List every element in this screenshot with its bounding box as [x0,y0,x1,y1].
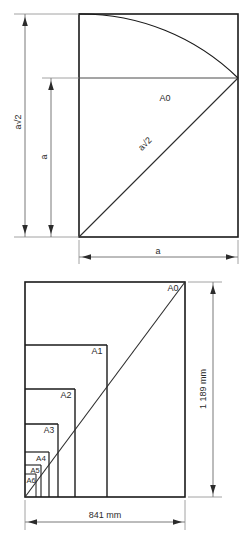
construction-arc [79,14,238,78]
bottom-diagram-group: A0 A1 A2 A3 A4 A5 A6 1 189 mm 841 mm [25,282,222,530]
height-dimension-label: a√2 [13,115,23,130]
square-side-dimension-label: a [39,154,49,159]
width-dimension-arrow-left [82,254,91,260]
width-dimension-arrow-right [226,254,235,260]
label-a1: A1 [91,346,102,356]
a0-sheet-label: A0 [159,93,170,103]
bottom-width-dimension-label: 841 mm [89,510,122,520]
label-a5: A5 [30,466,39,475]
top-diagram-group: A0 a√2 a√2 a a [13,14,238,264]
bottom-height-arrow-bottom [210,485,216,494]
bottom-height-dimension-label: 1 189 mm [198,369,208,409]
height-dimension-arrow-top [22,17,28,26]
height-dimension-arrow-bottom [22,225,28,234]
label-a2: A2 [60,390,71,400]
width-dimension-label: a [155,246,160,256]
bottom-width-arrow-left [28,519,37,525]
label-a0: A0 [167,283,178,293]
bottom-width-arrow-right [173,519,182,525]
a0-rectangle-outline [79,14,238,237]
label-a3: A3 [44,425,55,435]
square-side-arrow-top [48,81,54,90]
iso-paper-size-diagram: A0 a√2 a√2 a a [0,0,248,545]
figure-canvas: A0 a√2 a√2 a a [0,0,248,545]
label-a6: A6 [26,476,35,485]
diagonal-length-label: a√2 [136,135,154,153]
bottom-height-arrow-top [210,285,216,294]
square-side-arrow-bottom [48,225,54,234]
label-a4: A4 [36,454,46,463]
